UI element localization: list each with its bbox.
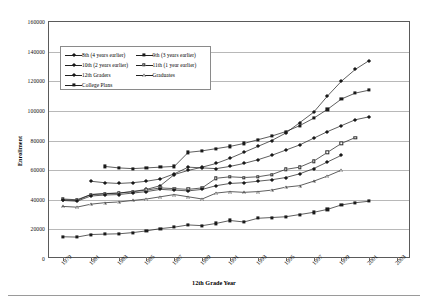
legend-item: 11th (1 year earlier) — [136, 60, 207, 70]
legend-item: 12th Graders — [65, 70, 136, 80]
data-point-marker — [339, 169, 343, 172]
data-point-marker — [326, 208, 329, 211]
y-axis-tick-label: 120000 — [28, 78, 45, 84]
series-line — [105, 90, 370, 169]
data-point-marker — [325, 175, 329, 178]
data-point-marker — [142, 74, 146, 77]
chart-legend: 8th (4 years earlier)9th (3 years earlie… — [60, 46, 211, 90]
data-point-marker — [312, 117, 315, 120]
legend-marker-icon — [65, 81, 82, 89]
data-point-marker — [173, 165, 176, 168]
data-point-marker — [117, 200, 121, 203]
data-point-marker — [228, 175, 231, 178]
legend-item: 10th (2 years earlier) — [65, 60, 136, 70]
data-point-marker — [131, 199, 135, 202]
legend-item: 9th (3 years earlier) — [136, 50, 207, 60]
data-point-marker — [201, 224, 204, 227]
data-point-marker — [214, 177, 217, 180]
legend-item: College Plans — [65, 80, 206, 90]
data-point-marker — [71, 63, 75, 67]
data-point-marker — [284, 186, 288, 189]
data-point-marker — [75, 206, 79, 209]
data-point-marker — [284, 168, 287, 171]
data-point-marker — [284, 215, 287, 218]
chart-figure: Enrollment 02000040000600008000010000012… — [0, 0, 428, 302]
data-point-marker — [340, 142, 343, 145]
data-point-marker — [270, 173, 273, 176]
data-point-marker — [312, 160, 315, 163]
data-point-marker — [284, 130, 287, 133]
data-point-marker — [256, 217, 259, 220]
data-point-marker — [117, 232, 120, 235]
y-axis-tick-label: 100000 — [28, 108, 45, 114]
data-point-marker — [326, 151, 329, 154]
data-point-marker — [270, 189, 274, 192]
legend-marker-icon — [136, 61, 153, 69]
data-point-marker — [103, 233, 106, 236]
y-axis-tick-label: 20000 — [31, 226, 45, 232]
data-point-marker — [71, 73, 75, 77]
data-point-marker — [89, 203, 93, 206]
data-point-marker — [298, 124, 301, 127]
data-point-marker — [173, 226, 176, 229]
data-point-marker — [214, 222, 217, 225]
data-point-marker — [228, 190, 232, 193]
data-point-marker — [61, 235, 64, 238]
data-point-marker — [172, 193, 176, 196]
legend-marker-icon — [136, 71, 153, 79]
data-point-marker — [242, 176, 245, 179]
data-point-marker — [326, 108, 329, 111]
data-point-marker — [145, 229, 148, 232]
y-axis-tick-label: 60000 — [31, 167, 45, 173]
data-point-marker — [187, 151, 190, 154]
data-point-marker — [61, 205, 65, 208]
data-point-marker — [158, 195, 162, 198]
data-point-marker — [242, 220, 245, 223]
data-point-marker — [159, 227, 162, 230]
data-point-marker — [228, 145, 231, 148]
legend-label: 12th Graders — [82, 72, 111, 78]
data-point-marker — [75, 235, 78, 238]
y-axis-tick-label: 160000 — [28, 19, 45, 25]
legend-label: College Plans — [82, 82, 112, 88]
legend-marker-icon — [65, 51, 82, 59]
y-axis-tick-label: 40000 — [31, 197, 45, 203]
data-point-marker — [186, 195, 190, 198]
data-point-marker — [72, 83, 75, 86]
data-point-marker — [117, 166, 120, 169]
legend-item: 8th (4 years earlier) — [65, 50, 136, 60]
y-axis-tick-label: 0 — [42, 256, 45, 262]
data-point-marker — [256, 190, 260, 193]
legend-label: 11th (1 year earlier) — [153, 62, 197, 68]
legend-label: 9th (3 years earlier) — [153, 52, 196, 58]
data-point-marker — [142, 63, 145, 66]
legend-label: 10th (2 years earlier) — [82, 62, 128, 68]
data-point-marker — [71, 53, 75, 57]
data-point-marker — [340, 97, 343, 100]
data-point-marker — [242, 142, 245, 145]
data-point-marker — [298, 184, 302, 187]
data-point-marker — [142, 53, 145, 56]
legend-label: Graduates — [153, 72, 175, 78]
data-point-marker — [270, 216, 273, 219]
data-point-marker — [145, 166, 148, 169]
data-point-marker — [256, 138, 259, 141]
data-point-marker — [131, 167, 134, 170]
data-point-marker — [159, 166, 162, 169]
data-point-marker — [144, 198, 148, 201]
y-axis-tick-label: 140000 — [28, 49, 45, 55]
data-point-marker — [340, 203, 343, 206]
data-point-marker — [103, 165, 106, 168]
data-point-marker — [214, 147, 217, 150]
data-point-marker — [368, 89, 371, 92]
legend-marker-icon — [65, 61, 82, 69]
data-point-marker — [200, 198, 204, 201]
series-line — [63, 201, 369, 237]
data-point-marker — [354, 201, 357, 204]
data-point-marker — [312, 211, 315, 214]
data-point-marker — [354, 92, 357, 95]
data-point-marker — [298, 213, 301, 216]
data-point-marker — [354, 136, 357, 139]
legend-marker-icon — [136, 51, 153, 59]
legend-item: Graduates — [136, 70, 207, 80]
